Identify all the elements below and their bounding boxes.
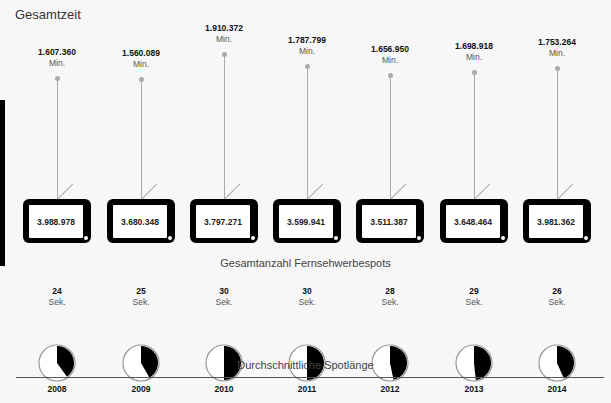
avg-seconds-value: 28: [348, 286, 432, 297]
pin-line: [141, 81, 142, 199]
tv-icon: 3.981.362: [523, 199, 591, 243]
total-minutes-value: 1.607.360: [15, 47, 99, 58]
tv-knob-icon: [84, 236, 88, 240]
pin-line: [307, 68, 308, 199]
pin-line: [224, 56, 225, 199]
avg-seconds-value: 30: [182, 286, 266, 297]
total-minutes-value: 1.753.264: [515, 37, 599, 48]
seconds-unit: Sek.: [265, 297, 349, 308]
tv-antenna-icon: [224, 183, 240, 199]
year-label: 2013: [432, 384, 516, 394]
year-column-2014: 1.753.264 Min. 3.981.362 26 Sek. 2014: [515, 0, 599, 403]
year-column-2008: 1.607.360 Min. 3.988.978 24 Sek. 2008: [15, 0, 99, 403]
tv-icon: 3.680.348: [107, 199, 175, 243]
spots-count-value: 3.680.348: [113, 205, 167, 238]
minutes-unit: Min.: [99, 59, 183, 70]
spots-count-value: 3.988.978: [29, 205, 83, 238]
seconds-unit: Sek.: [515, 297, 599, 308]
tv-knob-icon: [168, 236, 172, 240]
spots-count-value: 3.648.464: [446, 205, 500, 238]
year-label: 2012: [348, 384, 432, 394]
tv-antenna-icon: [141, 183, 157, 199]
avg-seconds-value: 24: [15, 286, 99, 297]
tv-antenna-icon: [307, 183, 323, 199]
year-label: 2008: [15, 384, 99, 394]
pin-line: [474, 74, 475, 199]
pin-line: [57, 80, 58, 199]
minutes-unit: Min.: [348, 55, 432, 66]
year-label: 2011: [265, 384, 349, 394]
spots-count-value: 3.797.271: [196, 205, 250, 238]
tv-antenna-icon: [557, 183, 573, 199]
minutes-unit: Min.: [15, 58, 99, 69]
year-column-2012: 1.656.950 Min. 3.511.387 28 Sek. 2012: [348, 0, 432, 403]
minutes-unit: Min.: [182, 34, 266, 45]
seconds-unit: Sek.: [99, 297, 183, 308]
length-section-label: Durchschnittliche Spotlänge: [0, 359, 611, 371]
year-label: 2009: [99, 384, 183, 394]
left-accent-bar: [0, 100, 5, 266]
seconds-unit: Sek.: [15, 297, 99, 308]
tv-knob-icon: [501, 236, 505, 240]
tv-knob-icon: [417, 236, 421, 240]
tv-icon: 3.648.464: [440, 199, 508, 243]
year-column-2010: 1.910.372 Min. 3.797.271 30 Sek. 2010: [182, 0, 266, 403]
total-minutes-value: 1.787.799: [265, 35, 349, 46]
tv-icon: 3.511.387: [356, 199, 424, 243]
spots-count-value: 3.981.362: [529, 205, 583, 238]
avg-seconds-value: 26: [515, 286, 599, 297]
total-minutes-value: 1.910.372: [182, 23, 266, 34]
tv-antenna-icon: [390, 183, 406, 199]
tv-icon: 3.599.941: [273, 199, 341, 243]
avg-seconds-value: 30: [265, 286, 349, 297]
spots-section-label: Gesamtanzahl Fernsehwerbespots: [0, 257, 611, 269]
total-minutes-value: 1.560.089: [99, 48, 183, 59]
x-axis-line: [16, 377, 604, 378]
tv-knob-icon: [251, 236, 255, 240]
pin-line: [557, 70, 558, 199]
tv-knob-icon: [334, 236, 338, 240]
avg-seconds-value: 29: [432, 286, 516, 297]
total-minutes-value: 1.698.918: [432, 41, 516, 52]
pin-line: [390, 77, 391, 199]
tv-antenna-icon: [57, 183, 73, 199]
tv-icon: 3.988.978: [23, 199, 91, 243]
total-minutes-value: 1.656.950: [348, 44, 432, 55]
spots-count-value: 3.511.387: [362, 205, 416, 238]
minutes-unit: Min.: [432, 52, 516, 63]
spots-count-value: 3.599.941: [279, 205, 333, 238]
tv-antenna-icon: [474, 183, 490, 199]
seconds-unit: Sek.: [432, 297, 516, 308]
avg-seconds-value: 25: [99, 286, 183, 297]
minutes-unit: Min.: [515, 48, 599, 59]
year-column-2009: 1.560.089 Min. 3.680.348 25 Sek. 2009: [99, 0, 183, 403]
year-label: 2014: [515, 384, 599, 394]
seconds-unit: Sek.: [182, 297, 266, 308]
year-label: 2010: [182, 384, 266, 394]
year-column-2011: 1.787.799 Min. 3.599.941 30 Sek. 2011: [265, 0, 349, 403]
seconds-unit: Sek.: [348, 297, 432, 308]
year-column-2013: 1.698.918 Min. 3.648.464 29 Sek. 2013: [432, 0, 516, 403]
tv-knob-icon: [584, 236, 588, 240]
tv-icon: 3.797.271: [190, 199, 258, 243]
minutes-unit: Min.: [265, 46, 349, 57]
